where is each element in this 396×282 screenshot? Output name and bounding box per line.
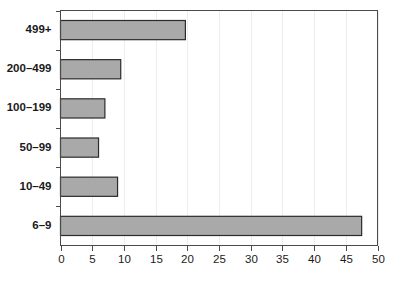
x-tick-label-20: 20	[181, 253, 194, 265]
bar-chart: 05101520253035404550 6–910–4950–99100–19…	[0, 0, 396, 282]
x-tick-label-5: 5	[89, 253, 95, 265]
x-tick-label-25: 25	[213, 253, 226, 265]
gridlines	[93, 11, 379, 246]
x-tick-label-0: 0	[58, 253, 64, 265]
bar-200-499	[61, 60, 121, 79]
bar-499+	[61, 20, 186, 39]
bar-100-199	[61, 99, 105, 118]
y-tick-label-6-9: 6–9	[32, 219, 51, 231]
x-axis-ticks	[62, 246, 379, 251]
x-tick-label-50: 50	[372, 253, 385, 265]
y-tick-label-100-199: 100–199	[7, 101, 52, 113]
x-tick-label-15: 15	[150, 253, 163, 265]
x-tick-label-45: 45	[340, 253, 353, 265]
y-axis-tick-labels: 6–910–4950–99100–199200–499499+	[7, 23, 52, 231]
bars-group	[61, 20, 362, 235]
y-axis-ticks	[56, 12, 61, 207]
x-tick-label-30: 30	[245, 253, 258, 265]
y-tick-label-10-49: 10–49	[20, 180, 52, 192]
x-axis-tick-labels: 05101520253035404550	[58, 253, 385, 265]
y-tick-label-200-499: 200–499	[7, 62, 52, 74]
bar-50-99	[61, 138, 99, 157]
chart-canvas: 05101520253035404550 6–910–4950–99100–19…	[0, 0, 396, 282]
y-tick-label-50-99: 50–99	[20, 141, 52, 153]
y-tick-label-499+: 499+	[26, 23, 52, 35]
x-tick-label-10: 10	[118, 253, 131, 265]
x-tick-label-35: 35	[276, 253, 289, 265]
bar-10-49	[61, 177, 118, 196]
bar-6-9	[61, 216, 362, 235]
x-tick-label-40: 40	[308, 253, 321, 265]
